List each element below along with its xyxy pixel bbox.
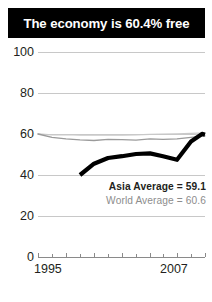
chart-title-bar: The economy is 60.4% free (8, 8, 205, 38)
chart-legend: Asia Average = 59.1 World Average = 60.6 (88, 180, 206, 208)
legend-item-world-average: World Average = 60.6 (88, 194, 206, 208)
x-tick-label-1995: 1995 (34, 262, 62, 276)
x-tick-label-2007: 2007 (160, 262, 188, 276)
plot-area: 100 80 60 40 20 0 (0, 40, 212, 302)
chart-title-text: The economy is 60.4% free (23, 16, 189, 31)
x-axis (38, 253, 205, 257)
economic-freedom-chart-card: The economy is 60.4% free 100 80 60 40 2… (0, 0, 212, 302)
legend-item-asia-average: Asia Average = 59.1 (88, 180, 206, 194)
